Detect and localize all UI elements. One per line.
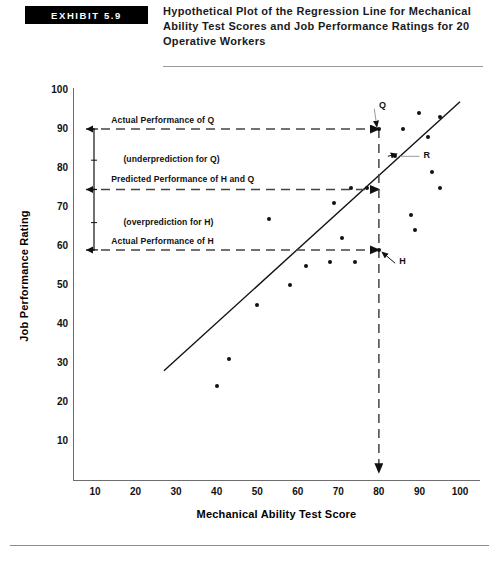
- annotation-text-1: (underprediction for Q): [123, 154, 219, 164]
- annotation-layer: Actual Performance of Q(underprediction …: [0, 80, 499, 542]
- footer-divider: [10, 545, 489, 546]
- scatter-plot: 102030405060708090100 102030405060708090…: [0, 80, 499, 542]
- exhibit-page: EXHIBIT 5.9 Hypothetical Plot of the Reg…: [0, 0, 499, 562]
- exhibit-badge: EXHIBIT 5.9: [25, 6, 148, 24]
- point-label-H: H: [399, 256, 406, 266]
- point-label-R: R: [424, 150, 431, 160]
- exhibit-header: EXHIBIT 5.9 Hypothetical Plot of the Reg…: [0, 0, 499, 80]
- annotation-text-3: (overprediction for H): [123, 217, 213, 227]
- annotation-text-0: Actual Performance of Q: [111, 115, 214, 125]
- header-divider: [163, 66, 483, 67]
- exhibit-title: Hypothetical Plot of the Regression Line…: [163, 4, 483, 50]
- annotation-text-2: Predicted Performance of H and Q: [111, 174, 254, 184]
- annotation-text-4: Actual Performance of H: [111, 236, 214, 246]
- point-label-Q: Q: [379, 100, 386, 110]
